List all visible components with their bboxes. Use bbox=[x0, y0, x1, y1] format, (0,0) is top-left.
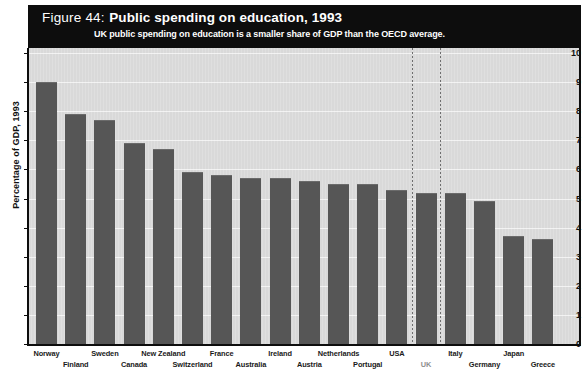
y-axis-tick-label: 10 bbox=[559, 49, 581, 58]
page-title: Public spending on education, 1993 bbox=[109, 10, 342, 25]
bar bbox=[153, 149, 174, 344]
bar bbox=[503, 236, 524, 344]
x-axis-label-greece: Greece bbox=[503, 360, 583, 369]
gridline bbox=[28, 111, 579, 112]
bar bbox=[445, 193, 466, 344]
bar bbox=[240, 178, 261, 344]
y-axis-tick-label: 5 bbox=[559, 195, 581, 204]
figure-number: Figure 44: bbox=[42, 10, 105, 25]
y-axis-tick-label: 7 bbox=[559, 136, 581, 145]
x-axis-label-japan: Japan bbox=[474, 349, 554, 358]
bar bbox=[474, 201, 495, 344]
y-axis-tick-mark bbox=[24, 111, 28, 112]
y-axis-tick-mark bbox=[24, 199, 28, 200]
figure-title-line: Figure 44: Public spending on education,… bbox=[42, 8, 342, 27]
y-axis-tick-label: 2 bbox=[559, 282, 581, 291]
bar bbox=[124, 143, 145, 344]
y-axis-tick-mark bbox=[24, 53, 28, 54]
y-axis-tick-mark bbox=[24, 344, 28, 345]
bar bbox=[270, 178, 291, 344]
bar bbox=[65, 114, 86, 344]
y-axis-tick-label: 4 bbox=[559, 224, 581, 233]
bar bbox=[386, 190, 407, 344]
y-axis-line bbox=[27, 48, 29, 345]
bar bbox=[532, 239, 553, 344]
bar bbox=[416, 193, 437, 344]
y-axis-tick-mark bbox=[24, 169, 28, 170]
y-axis-tick-label: 6 bbox=[559, 165, 581, 174]
bar bbox=[328, 184, 349, 344]
bar bbox=[211, 175, 232, 344]
y-axis-tick-label: 8 bbox=[559, 107, 581, 116]
y-axis-tick-mark bbox=[24, 315, 28, 316]
y-axis-tick-label: 1 bbox=[559, 311, 581, 320]
figure-header-band: Figure 44: Public spending on education,… bbox=[28, 5, 581, 48]
y-axis-tick-mark bbox=[24, 82, 28, 83]
bar bbox=[182, 172, 203, 344]
figure-subtitle: UK public spending on education is a sma… bbox=[94, 29, 445, 39]
bar bbox=[357, 184, 378, 344]
bar bbox=[299, 181, 320, 344]
x-axis-line bbox=[27, 344, 581, 346]
y-axis-tick-label: 0 bbox=[559, 340, 581, 349]
plot-area bbox=[28, 48, 581, 344]
gridline bbox=[28, 82, 579, 83]
y-axis-title: Percentage of GDP, 1993 bbox=[11, 85, 21, 225]
uk-highlight-line-left bbox=[412, 48, 413, 344]
y-axis-tick-label: 3 bbox=[559, 253, 581, 262]
y-axis-tick-mark bbox=[24, 140, 28, 141]
y-axis-tick-mark bbox=[24, 286, 28, 287]
uk-highlight-line-right bbox=[440, 48, 441, 344]
bar bbox=[94, 120, 115, 344]
y-axis-tick-label: 9 bbox=[559, 78, 581, 87]
bar bbox=[36, 82, 57, 344]
gridline bbox=[28, 53, 579, 54]
y-axis-tick-mark bbox=[24, 228, 28, 229]
y-axis-tick-mark bbox=[24, 257, 28, 258]
